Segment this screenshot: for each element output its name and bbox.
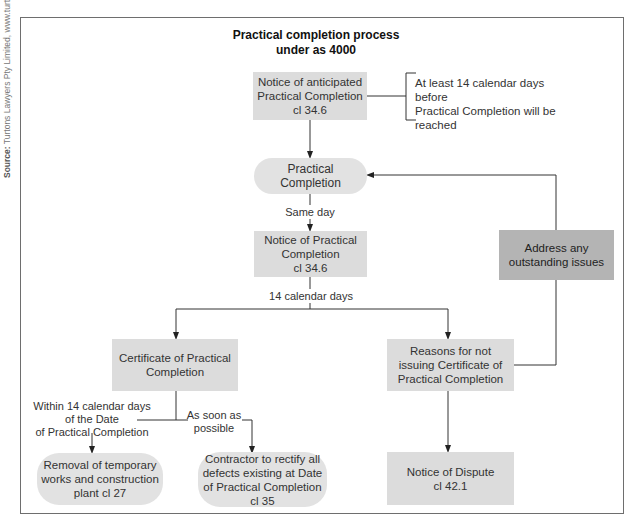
note-14-days-before: At least 14 calendar days before Practic… xyxy=(415,76,575,132)
node-certificate-of-pc: Certificate of Practical Completion xyxy=(112,339,238,391)
note-text: reached xyxy=(415,118,575,132)
node-notice-of-pc: Notice of Practical Completion cl 34.6 xyxy=(254,231,367,277)
label-text: possible xyxy=(186,422,242,435)
node-text: Certificate of Practical xyxy=(119,351,231,365)
node-text: plant cl 27 xyxy=(41,486,159,500)
node-text: Contractor to rectify all xyxy=(203,452,323,466)
node-text: Completion xyxy=(264,247,357,261)
node-text: Reasons for not xyxy=(398,344,503,358)
node-notice-anticipated-pc: Notice of anticipated Practical Completi… xyxy=(253,72,367,120)
node-text: defects existing at Date xyxy=(203,466,323,480)
node-text: Removal of temporary xyxy=(41,458,159,472)
node-text: works and construction xyxy=(41,472,159,486)
node-text: cl 42.1 xyxy=(407,479,495,493)
node-text: Practical Completion xyxy=(398,372,503,386)
label-text: As soon as xyxy=(186,409,242,422)
node-text: Notice of anticipated xyxy=(257,75,362,89)
node-notice-of-dispute: Notice of Dispute cl 42.1 xyxy=(387,452,514,505)
node-contractor-rectify-defects: Contractor to rectify all defects existi… xyxy=(198,452,327,507)
node-text: cl 35 xyxy=(203,494,323,508)
node-reasons-for-not-issuing: Reasons for not issuing Certificate of P… xyxy=(387,339,514,391)
node-practical-completion: Practical Completion xyxy=(254,158,367,194)
node-text: of Practical Completion xyxy=(203,480,323,494)
node-text: issuing Certificate of xyxy=(398,358,503,372)
node-text: Address any xyxy=(509,241,604,255)
node-text: outstanding issues xyxy=(509,255,604,269)
edge-label-as-soon-as-possible: As soon as possible xyxy=(186,409,242,435)
label-text: of the Date xyxy=(22,413,162,426)
edge-label-same-day: Same day xyxy=(280,206,340,219)
node-text: Completion xyxy=(119,365,231,379)
node-text: Practical Completion xyxy=(258,162,363,190)
node-text: Practical Completion xyxy=(257,89,362,103)
label-text: Within 14 calendar days xyxy=(22,400,162,413)
note-text: At least 14 calendar days before xyxy=(415,76,575,104)
node-removal-of-temporary-works: Removal of temporary works and construct… xyxy=(37,453,163,505)
node-text: Notice of Dispute xyxy=(407,465,495,479)
node-text: cl 34.6 xyxy=(264,261,357,275)
node-address-outstanding-issues: Address any outstanding issues xyxy=(499,230,614,280)
note-text: Practical Completion will be xyxy=(415,104,575,118)
label-text: of Practical Completion xyxy=(22,426,162,439)
edge-label-14-calendar-days: 14 calendar days xyxy=(268,290,354,303)
edge-label-within-14-days: Within 14 calendar days of the Date of P… xyxy=(22,400,162,439)
node-text: Notice of Practical xyxy=(264,233,357,247)
line-reasons-to-address xyxy=(514,280,556,365)
node-text: cl 34.6 xyxy=(257,103,362,117)
